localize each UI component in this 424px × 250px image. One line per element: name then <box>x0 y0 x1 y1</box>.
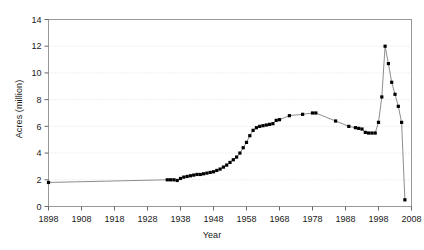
x-axis-tick-label: 1918 <box>104 214 124 224</box>
plot-frame <box>49 20 412 207</box>
x-axis-tick-label: 1898 <box>38 214 58 224</box>
data-point-marker <box>252 129 255 132</box>
data-point-marker <box>377 121 380 124</box>
data-point-marker <box>186 175 189 178</box>
data-point-marker <box>311 111 314 114</box>
x-axis-tick-label: 1978 <box>302 214 322 224</box>
x-axis-tick-label: 1928 <box>137 214 157 224</box>
data-point-marker <box>271 122 274 125</box>
y-axis-tick-label: 4 <box>36 148 41 158</box>
data-point-marker <box>245 141 248 144</box>
data-point-marker <box>288 114 291 117</box>
data-point-marker <box>199 173 202 176</box>
y-axis-tick-label: 14 <box>31 15 41 25</box>
data-point-marker <box>397 105 400 108</box>
x-axis-tick-label: 1948 <box>203 214 223 224</box>
data-point-marker <box>222 166 225 169</box>
x-axis-tick-label: 1958 <box>236 214 256 224</box>
y-axis-tick-label: 8 <box>36 95 41 105</box>
data-point-marker <box>275 119 278 122</box>
data-point-marker <box>195 173 198 176</box>
y-axis-tick-label: 12 <box>31 41 41 51</box>
x-axis-tick-label: 1988 <box>335 214 355 224</box>
data-point-marker <box>393 93 396 96</box>
data-point-marker <box>387 62 390 65</box>
data-point-marker <box>384 45 387 48</box>
data-point-marker <box>255 126 258 129</box>
data-point-marker <box>212 170 215 173</box>
chart-container: 0246810121418981908191819281938194819581… <box>0 0 424 250</box>
line-chart-svg: 0246810121418981908191819281938194819581… <box>0 0 424 250</box>
x-axis-tick-label: 1908 <box>71 214 91 224</box>
data-point-marker <box>182 176 185 179</box>
series-line <box>49 46 405 200</box>
y-axis-tick-label: 2 <box>36 175 41 185</box>
data-point-marker <box>367 131 370 134</box>
data-point-marker <box>225 163 228 166</box>
y-axis-tick-label: 0 <box>36 202 41 212</box>
data-point-marker <box>364 131 367 134</box>
data-point-marker <box>176 179 179 182</box>
data-point-marker <box>248 134 251 137</box>
data-point-marker <box>169 178 172 181</box>
data-point-marker <box>360 127 363 130</box>
data-point-marker <box>215 169 218 172</box>
data-point-marker <box>219 168 222 171</box>
y-axis-tick-label: 10 <box>31 68 41 78</box>
data-point-marker <box>172 178 175 181</box>
data-point-marker <box>354 126 357 129</box>
data-point-marker <box>357 127 360 130</box>
data-point-marker <box>166 178 169 181</box>
data-point-marker <box>261 124 264 127</box>
data-point-marker <box>265 123 268 126</box>
data-point-marker <box>232 158 235 161</box>
data-point-marker <box>228 161 231 164</box>
data-point-marker <box>334 119 337 122</box>
x-axis-tick-label: 1968 <box>269 214 289 224</box>
data-point-marker <box>209 171 212 174</box>
data-point-marker <box>238 151 241 154</box>
data-point-marker <box>370 131 373 134</box>
data-point-marker <box>314 111 317 114</box>
x-axis-tick-label: 1998 <box>368 214 388 224</box>
x-axis-title: Year <box>0 230 424 240</box>
data-point-marker <box>242 146 245 149</box>
data-point-marker <box>179 177 182 180</box>
data-point-marker <box>400 121 403 124</box>
data-point-marker <box>403 198 406 201</box>
data-point-marker <box>301 113 304 116</box>
data-point-marker <box>380 95 383 98</box>
data-point-marker <box>347 125 350 128</box>
data-point-marker <box>278 118 281 121</box>
data-point-marker <box>47 181 50 184</box>
data-point-marker <box>258 125 261 128</box>
data-point-marker <box>390 81 393 84</box>
data-point-marker <box>205 172 208 175</box>
data-point-marker <box>374 131 377 134</box>
data-point-marker <box>235 155 238 158</box>
data-point-marker <box>192 174 195 177</box>
data-point-marker <box>189 174 192 177</box>
data-point-marker <box>268 123 271 126</box>
data-point-marker <box>202 172 205 175</box>
x-axis-tick-label: 2008 <box>401 214 421 224</box>
y-axis-title: Acres (million) <box>14 64 24 154</box>
y-axis-tick-label: 6 <box>36 122 41 132</box>
x-axis-tick-label: 1938 <box>170 214 190 224</box>
